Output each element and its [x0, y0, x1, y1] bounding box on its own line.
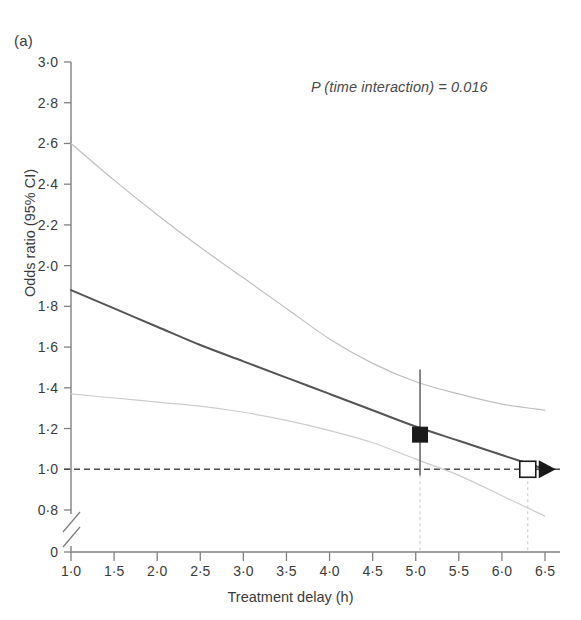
- y-axis-break-icon: [63, 512, 80, 547]
- figure-panel-a: (a) P (time interaction) = 0.016 Odds ra…: [0, 0, 581, 620]
- data-point-markers: [412, 369, 556, 478]
- axis-spines: [71, 62, 560, 552]
- x-tick-label: 4·5: [363, 563, 383, 579]
- odds-ratio-line: [71, 290, 545, 469]
- x-tick-label: 6·0: [492, 563, 512, 579]
- y-tick-label: 0: [0, 544, 58, 560]
- upper-ci-line: [71, 143, 545, 410]
- y-tick-label: 1·8: [0, 298, 58, 314]
- x-tick-label: 2·0: [147, 563, 167, 579]
- x-axis-ticks: [71, 552, 545, 561]
- x-tick-label: 6·5: [535, 563, 555, 579]
- y-tick-label: 1·6: [0, 339, 58, 355]
- y-tick-label: 2·0: [0, 258, 58, 274]
- right-arrow-icon: [539, 460, 556, 478]
- y-tick-label: 2·2: [0, 217, 58, 233]
- y-tick-label: 1·4: [0, 380, 58, 396]
- lower-ci-line: [71, 394, 545, 516]
- odds-ratio-curve: [71, 290, 545, 469]
- y-tick-label: 2·4: [0, 176, 58, 192]
- x-tick-label: 3·5: [276, 563, 296, 579]
- x-tick-label: 5·0: [406, 563, 426, 579]
- x-tick-label: 3·0: [233, 563, 253, 579]
- confidence-interval-curves: [71, 143, 545, 516]
- y-tick-label: 2·8: [0, 95, 58, 111]
- y-tick-label: 1·2: [0, 421, 58, 437]
- open-square-marker: [520, 461, 536, 477]
- x-tick-label: 5·5: [449, 563, 469, 579]
- x-tick-label: 1·0: [61, 563, 81, 579]
- y-axis-ticks: [64, 62, 71, 552]
- plot-area: [0, 0, 581, 620]
- x-tick-label: 4·0: [319, 563, 339, 579]
- x-tick-label: 2·5: [190, 563, 210, 579]
- y-tick-label: 0·8: [0, 502, 58, 518]
- y-tick-label: 1·0: [0, 461, 58, 477]
- filled-square-marker: [412, 427, 428, 443]
- y-tick-label: 3·0: [0, 54, 58, 70]
- y-tick-label: 2·6: [0, 135, 58, 151]
- x-tick-label: 1·5: [104, 563, 124, 579]
